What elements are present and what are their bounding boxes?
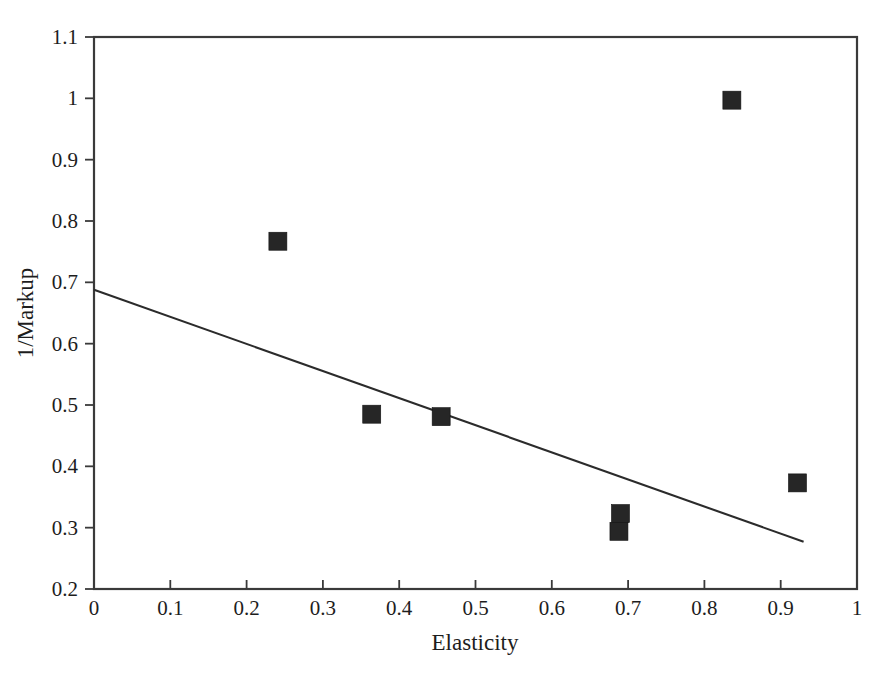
y-axis-title: 1/Markup — [13, 268, 38, 359]
y-tick-label: 0.2 — [52, 577, 78, 601]
y-tick-label: 0.4 — [52, 454, 79, 478]
x-tick-label: 0.8 — [691, 596, 717, 620]
y-axis-ticks — [85, 37, 94, 589]
x-tick-label: 0.6 — [539, 596, 565, 620]
data-point-marker — [723, 91, 741, 109]
x-tick-label: 0.5 — [462, 596, 488, 620]
scatter-chart: 00.10.20.30.40.50.60.70.80.91 0.20.30.40… — [0, 0, 891, 678]
y-tick-label: 1 — [68, 86, 79, 110]
x-tick-label: 0 — [89, 596, 100, 620]
y-axis-tick-labels: 0.20.30.40.50.60.70.80.911.1 — [52, 25, 79, 601]
data-point-marker — [610, 522, 628, 540]
data-point-marker — [432, 408, 450, 426]
x-tick-label: 0.4 — [386, 596, 413, 620]
x-axis-title: Elasticity — [432, 630, 519, 655]
y-tick-label: 0.7 — [52, 270, 78, 294]
y-tick-label: 0.6 — [52, 332, 78, 356]
x-tick-label: 1 — [852, 596, 863, 620]
y-tick-label: 0.5 — [52, 393, 78, 417]
y-tick-label: 0.8 — [52, 209, 78, 233]
y-tick-label: 0.3 — [52, 516, 78, 540]
chart-canvas: 00.10.20.30.40.50.60.70.80.91 0.20.30.40… — [0, 0, 891, 678]
plot-frame — [94, 37, 857, 589]
x-tick-label: 0.3 — [310, 596, 336, 620]
data-point-marker — [611, 505, 629, 523]
x-tick-label: 0.1 — [157, 596, 183, 620]
data-points — [269, 91, 807, 540]
y-tick-label: 0.9 — [52, 148, 78, 172]
y-tick-label: 1.1 — [52, 25, 78, 49]
x-axis-ticks — [94, 580, 857, 589]
data-point-marker — [788, 474, 806, 492]
x-tick-label: 0.7 — [615, 596, 641, 620]
data-point-marker — [269, 232, 287, 250]
x-tick-label: 0.2 — [233, 596, 259, 620]
x-tick-label: 0.9 — [768, 596, 794, 620]
data-point-marker — [363, 405, 381, 423]
x-axis-tick-labels: 00.10.20.30.40.50.60.70.80.91 — [89, 596, 863, 620]
